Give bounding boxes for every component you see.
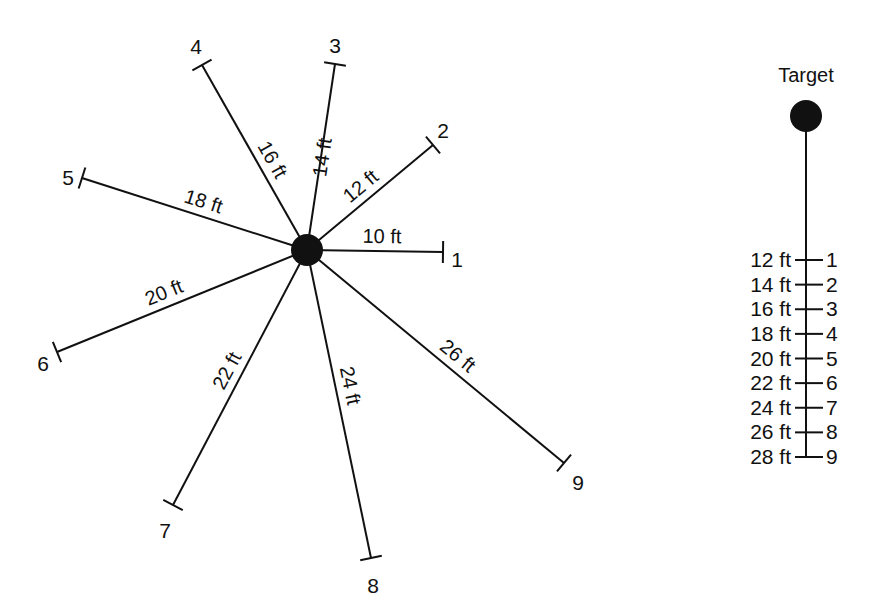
spoke-number: 3 [329, 34, 341, 57]
scale-tick: 16 ft3 [750, 297, 838, 320]
spoke-number: 6 [37, 352, 49, 375]
scale-tick: 14 ft2 [750, 273, 838, 296]
scale-number: 3 [826, 297, 838, 320]
spoke-number: 7 [159, 519, 171, 542]
scale-tick: 22 ft6 [750, 371, 838, 394]
spoke-line [173, 250, 307, 505]
spoke-end-tick [192, 60, 211, 71]
scale-ticks: 12 ft114 ft216 ft318 ft420 ft522 ft624 f… [750, 248, 838, 468]
spoke-line [57, 250, 307, 352]
scale-tick: 24 ft7 [750, 396, 838, 419]
spoke-number: 8 [367, 574, 379, 597]
scale-distance-label: 24 ft [750, 396, 791, 419]
scale-number: 9 [826, 445, 838, 468]
center-marker [291, 234, 323, 266]
scale-tick: 26 ft8 [750, 420, 838, 443]
radial-spokes: 10 ft112 ft214 ft316 ft418 ft520 ft622 f… [37, 34, 584, 597]
distance-diagram: 10 ft112 ft214 ft316 ft418 ft520 ft622 f… [0, 0, 895, 610]
spoke-distance-label: 14 ft [308, 136, 336, 178]
spoke-3: 14 ft3 [307, 34, 346, 250]
spoke-distance-label: 16 ft [254, 137, 293, 182]
scale-distance-label: 18 ft [750, 322, 791, 345]
scale-number: 5 [826, 347, 838, 370]
spoke-number: 4 [190, 35, 202, 58]
scale-distance-label: 14 ft [750, 273, 791, 296]
spoke-5: 18 ft5 [62, 166, 307, 250]
spoke-distance-label: 20 ft [142, 275, 187, 310]
scale-distance-label: 12 ft [750, 248, 791, 271]
spoke-6: 20 ft6 [37, 250, 307, 375]
target-scale: Target 12 ft114 ft216 ft318 ft420 ft522 … [750, 64, 838, 468]
scale-tick: 28 ft9 [750, 445, 838, 468]
scale-number: 4 [826, 322, 838, 345]
scale-distance-label: 28 ft [750, 445, 791, 468]
scale-number: 2 [826, 273, 838, 296]
spoke-number: 2 [437, 119, 449, 142]
spoke-distance-label: 24 ft [336, 364, 366, 407]
scale-number: 8 [826, 420, 838, 443]
spoke-end-tick [163, 500, 182, 510]
spoke-number: 1 [451, 248, 463, 271]
spoke-number: 9 [572, 471, 584, 494]
scale-distance-label: 26 ft [750, 420, 791, 443]
spoke-end-tick [53, 342, 61, 362]
scale-distance-label: 16 ft [750, 297, 791, 320]
spoke-distance-label: 12 ft [338, 165, 382, 207]
spoke-number: 5 [62, 166, 74, 189]
spoke-distance-label: 10 ft [362, 225, 402, 248]
spoke-end-tick [557, 455, 571, 472]
scale-number: 7 [826, 396, 838, 419]
spoke-line [307, 250, 443, 252]
scale-tick: 12 ft1 [750, 248, 838, 271]
spoke-distance-label: 22 ft [208, 348, 246, 393]
scale-number: 6 [826, 371, 838, 394]
scale-number: 1 [826, 248, 838, 271]
spoke-distance-label: 26 ft [436, 335, 480, 377]
scale-distance-label: 20 ft [750, 347, 791, 370]
scale-title: Target [778, 64, 834, 86]
scale-tick: 18 ft4 [750, 322, 838, 345]
scale-tick: 20 ft5 [750, 347, 838, 370]
scale-distance-label: 22 ft [750, 371, 791, 394]
